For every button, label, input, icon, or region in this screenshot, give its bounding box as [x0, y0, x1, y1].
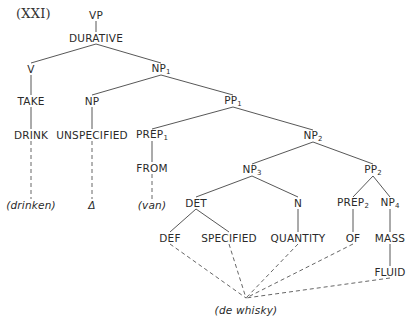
node-subscript: 2: [318, 135, 323, 143]
node-mass: MASS: [375, 232, 405, 244]
example-number: (XXI): [16, 6, 51, 21]
edge-np3-n: [252, 176, 298, 197]
node-pp1: PP1: [224, 94, 242, 108]
node-np2: NP2: [303, 129, 322, 143]
node-v: V: [27, 63, 34, 75]
node-drink: DRINK: [14, 129, 48, 141]
edge-pp1-prep1: [152, 107, 233, 129]
node-np1: NP1: [151, 62, 170, 76]
node-subscript: 1: [166, 68, 171, 76]
node-text: NP: [85, 95, 100, 107]
node-subscript: 1: [163, 134, 168, 142]
node-subscript: 2: [364, 202, 369, 210]
node-vp: VP: [89, 9, 103, 21]
edge-of-whisky_pt: [246, 244, 353, 298]
node-of: OF: [346, 232, 361, 244]
node-text: OF: [346, 232, 361, 244]
node-delta: Δ: [88, 199, 95, 211]
node-prep2: PREP2: [337, 196, 369, 210]
edge-det-specified: [196, 209, 229, 232]
edge-pp1-np2: [233, 107, 313, 130]
node-text: PREP: [337, 196, 364, 208]
node-specified: SPECIFIED: [201, 232, 257, 244]
node-text: DURATIVE: [69, 32, 123, 44]
node-pp2: PP2: [364, 163, 382, 177]
node-text: Δ: [88, 199, 95, 211]
node-unspecified: UNSPECIFIED: [56, 129, 128, 141]
node-de-whisky: (de whisky): [215, 304, 278, 316]
node-n: N: [294, 197, 302, 209]
edge-det-def: [170, 209, 196, 232]
node-text: UNSPECIFIED: [56, 129, 128, 141]
node-text: MASS: [375, 232, 405, 244]
edge-np2-pp2: [313, 142, 373, 164]
node-text: PP: [224, 94, 237, 106]
node-np3: NP3: [242, 163, 261, 177]
node-text: NP: [303, 129, 318, 141]
edge-np3-det: [196, 176, 252, 197]
node-det: DET: [185, 197, 207, 209]
node-text: VP: [89, 9, 103, 21]
node-text: DEF: [159, 232, 180, 244]
tree-edges: [0, 0, 411, 323]
node-fluid: FLUID: [374, 266, 405, 278]
node-text: (drinken): [6, 199, 56, 211]
node-text: FROM: [136, 162, 167, 174]
edge-def-whisky_pt: [170, 244, 246, 298]
edge-durative-v: [31, 44, 96, 63]
node-text: (de whisky): [215, 304, 278, 316]
node-text: N: [294, 197, 302, 209]
node-subscript: 4: [395, 202, 400, 210]
edge-fluid-whisky_pt: [246, 278, 390, 298]
node-np4: NP4: [380, 196, 399, 210]
edge-pp2-np4: [373, 176, 390, 197]
node-text: FLUID: [374, 266, 405, 278]
edge-np1-pp1: [161, 75, 233, 95]
node-drinken: (drinken): [6, 199, 56, 211]
node-text: PP: [364, 163, 377, 175]
node-text: PREP: [136, 128, 163, 140]
node-subscript: 3: [257, 169, 262, 177]
node-text: NP: [242, 163, 257, 175]
node-text: V: [27, 63, 34, 75]
node-text: DRINK: [14, 129, 48, 141]
node-np: NP: [85, 95, 100, 107]
node-text: NP: [380, 196, 395, 208]
edge-pp2-prep2: [353, 176, 373, 197]
edge-np1-np: [92, 75, 161, 95]
node-prep1: PREP1: [136, 128, 168, 142]
node-text: QUANTITY: [271, 232, 326, 244]
node-text: (van): [138, 199, 167, 211]
edge-np2-np3: [252, 142, 313, 164]
node-durative: DURATIVE: [69, 32, 123, 44]
node-from: FROM: [136, 162, 167, 174]
node-text: TAKE: [17, 95, 44, 107]
edge-durative-np1: [96, 44, 161, 63]
node-subscript: 1: [237, 100, 242, 108]
node-subscript: 2: [377, 169, 382, 177]
node-take: TAKE: [17, 95, 44, 107]
node-quantity: QUANTITY: [271, 232, 326, 244]
node-text: NP: [151, 62, 166, 74]
node-def: DEF: [159, 232, 180, 244]
edge-specified-whisky_pt: [229, 244, 246, 298]
node-text: DET: [185, 197, 207, 209]
node-van: (van): [138, 199, 167, 211]
node-text: SPECIFIED: [201, 232, 257, 244]
edge-quantity-whisky_pt: [246, 244, 298, 298]
